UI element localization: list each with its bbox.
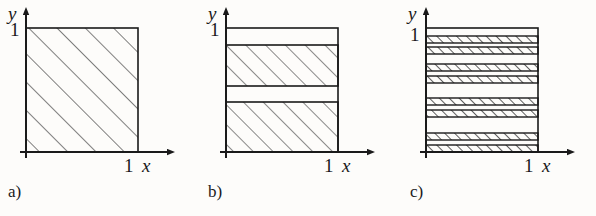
panel-a: y 1 1 x a): [0, 0, 196, 216]
panel-caption-b: b): [208, 183, 222, 200]
y-tick-label-c: 1: [410, 25, 420, 44]
x-tick-label-a: 1: [124, 156, 134, 175]
x-tick-label-b: 1: [324, 156, 334, 175]
panel-c: y 1 1 x c): [390, 0, 586, 216]
y-tick-label-a: 1: [10, 20, 20, 39]
hatched-region-a: [26, 28, 138, 152]
hatched-bands-b: [226, 45, 338, 152]
panel-b: y 1 1 x b): [200, 0, 396, 216]
x-axis-label-c: x: [542, 156, 550, 175]
figure-root: y 1 1 x a): [0, 0, 596, 216]
panel-b-graphic: [200, 0, 396, 216]
panel-a-graphic: [0, 0, 196, 216]
y-axis-label-c: y: [408, 4, 416, 23]
y-tick-label-b: 1: [210, 20, 220, 39]
panel-caption-a: a): [8, 183, 21, 200]
x-axis-label-b: x: [342, 156, 350, 175]
x-axis-label-a: x: [142, 156, 150, 175]
x-tick-label-c: 1: [524, 156, 534, 175]
panel-caption-c: c): [410, 183, 423, 200]
hatched-bands-c: [426, 36, 538, 152]
